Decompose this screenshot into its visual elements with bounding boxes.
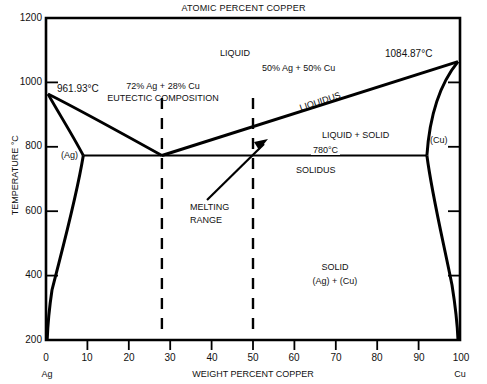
fifty-fifty-composition-label: 50% Ag + 50% Cu <box>262 63 335 73</box>
eutectic-temperature-label: 780°C <box>311 145 340 155</box>
x-axis-left-element-label: Ag <box>36 369 58 379</box>
solid-region-phases-label: (Ag) + (Cu) <box>300 276 370 286</box>
melting-range-label-line1: MELTING <box>190 202 229 212</box>
x-tick-label-30: 30 <box>160 352 180 364</box>
solvus-curve-cu-side <box>427 156 458 341</box>
x-tick-label-80: 80 <box>367 352 387 364</box>
solvus-curve-ag-side <box>47 156 83 341</box>
ag-phase-region-label: (Ag) <box>61 150 78 160</box>
melting-range-label-line2: RANGE <box>190 215 222 225</box>
y-axis-ticks-right <box>448 82 460 275</box>
eutectic-composition-label-line1: 72% Ag + 28% Cu <box>98 81 228 91</box>
x-tick-label-10: 10 <box>77 352 97 364</box>
solid-region-label: SOLID <box>305 262 365 272</box>
x-tick-label-60: 60 <box>284 352 304 364</box>
x-tick-label-20: 20 <box>119 352 139 364</box>
eutectic-composition-label-line2: EUTECTIC COMPOSITION <box>88 93 238 103</box>
x-axis-ticks <box>87 340 418 350</box>
liquid-region-label: LIQUID <box>220 48 250 58</box>
melting-range-arrow <box>207 139 268 200</box>
y-tick-label-1200: 1200 <box>6 12 42 24</box>
liquid-plus-solid-region-label: LIQUID + SOLID <box>322 130 389 140</box>
y-tick-label-400: 400 <box>6 269 42 281</box>
x-tick-label-70: 70 <box>326 352 346 364</box>
x-axis-right-element-label: Cu <box>449 369 471 379</box>
cu-melting-point-label: 1084.87°C <box>385 48 432 60</box>
y-tick-label-200: 200 <box>6 334 42 346</box>
cu-phase-region-label: (Cu) <box>430 135 448 145</box>
x-tick-label-50: 50 <box>243 352 263 364</box>
y-tick-label-1000: 1000 <box>6 76 42 88</box>
solidus-line-label: SOLIDUS <box>296 165 336 175</box>
x-tick-label-0: 0 <box>36 352 56 364</box>
phase-diagram-figure: ATOMIC PERCENT COPPER <box>0 0 487 384</box>
y-axis-title: TEMPERATURE °C <box>10 115 20 235</box>
y-axis-ticks <box>46 82 58 275</box>
x-axis-title: WEIGHT PERCENT COPPER <box>143 369 363 379</box>
x-tick-label-40: 40 <box>202 352 222 364</box>
x-tick-label-100: 100 <box>448 352 474 364</box>
x-tick-label-90: 90 <box>409 352 429 364</box>
